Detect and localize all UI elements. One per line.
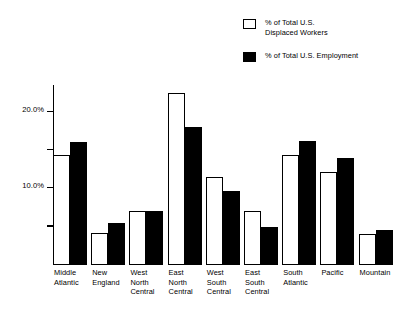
- bar-displaced-workers: [282, 155, 299, 265]
- legend-item-total-employment: % of Total U.S. Employment: [243, 51, 403, 62]
- bar-displaced-workers: [129, 211, 146, 265]
- bar-displaced-workers: [53, 155, 70, 265]
- filled-square-swatch-icon: [243, 52, 256, 62]
- bar-total-employment: [185, 127, 202, 265]
- bar-displaced-workers: [168, 93, 185, 265]
- bar-group: [244, 85, 278, 265]
- bar-group: [282, 85, 316, 265]
- chart-legend: % of Total U.S. Displaced Workers % of T…: [243, 18, 403, 76]
- bar-group: [359, 85, 393, 265]
- bar-total-employment: [337, 158, 354, 265]
- open-square-swatch-icon: [243, 19, 256, 29]
- bar-group: [168, 85, 202, 265]
- bar-total-employment: [108, 223, 125, 265]
- y-axis-tick-label: 20.0%: [22, 105, 44, 114]
- legend-item-label: % of Total U.S. Employment: [265, 51, 358, 61]
- bar-total-employment: [223, 191, 240, 265]
- bar-group: [53, 85, 87, 265]
- plot-area: 20.0%10.0% Middle AtlanticNew EnglandWes…: [53, 85, 401, 265]
- bar-displaced-workers: [359, 234, 376, 265]
- bar-group: [320, 85, 354, 265]
- bar-displaced-workers: [91, 233, 108, 265]
- bar-displaced-workers: [320, 172, 337, 265]
- bar-total-employment: [299, 141, 316, 265]
- legend-item-displaced-workers: % of Total U.S. Displaced Workers: [243, 18, 403, 37]
- grouped-bar-chart: % of Total U.S. Displaced Workers % of T…: [0, 0, 409, 314]
- bar-total-employment: [261, 227, 278, 265]
- bar-displaced-workers: [244, 211, 261, 265]
- bar-group: [91, 85, 125, 265]
- bar-group: [129, 85, 163, 265]
- bar-total-employment: [70, 142, 87, 265]
- bar-total-employment: [146, 211, 163, 265]
- bar-displaced-workers: [206, 177, 223, 265]
- bar-group: [206, 85, 240, 265]
- y-axis-tick-label: 10.0%: [22, 181, 44, 190]
- legend-item-label: % of Total U.S. Displaced Workers: [265, 18, 328, 37]
- bar-total-employment: [376, 230, 393, 265]
- x-axis-category-label: Mountain: [360, 268, 408, 278]
